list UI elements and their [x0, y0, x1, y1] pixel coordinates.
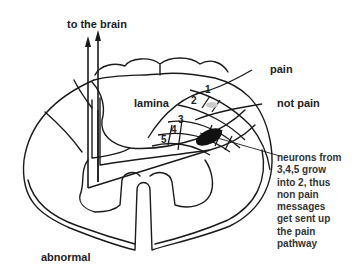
annotation-line: 3,4,5 grow — [277, 164, 357, 176]
dorsal-horn-outline — [95, 58, 228, 75]
annotation-line: neurons from — [277, 152, 357, 164]
lamina-number-5: 5 — [161, 134, 167, 145]
label-abnormal: abnormal — [41, 251, 91, 263]
annotation-line: pathway — [277, 238, 357, 250]
lamina-number-1: 1 — [205, 84, 211, 95]
grey-matter-outline — [92, 82, 245, 149]
lamina-number-3: 3 — [178, 114, 184, 125]
label-pain: pain — [270, 63, 293, 75]
lamina-number-4: 4 — [171, 124, 177, 135]
not-pain-fiber — [195, 104, 262, 120]
label-not-pain: not pain — [277, 97, 320, 109]
label-to-the-brain: to the brain — [67, 18, 127, 30]
annotation-line: the pain — [277, 226, 357, 238]
grey-neuron-blob — [206, 102, 218, 108]
annotation-line: messages — [277, 201, 357, 213]
arrowhead-icon — [95, 30, 101, 41]
arrowhead-icon — [85, 36, 91, 47]
annotation-text: neurons from 3,4,5 grow into 2, thus non… — [277, 152, 357, 250]
lamina-number-2: 2 — [191, 95, 197, 106]
label-lamina: lamina — [134, 97, 169, 109]
annotation-line: get sent up — [277, 213, 357, 225]
annotation-line: into 2, thus — [277, 177, 357, 189]
annotation-line: non pain — [277, 189, 357, 201]
